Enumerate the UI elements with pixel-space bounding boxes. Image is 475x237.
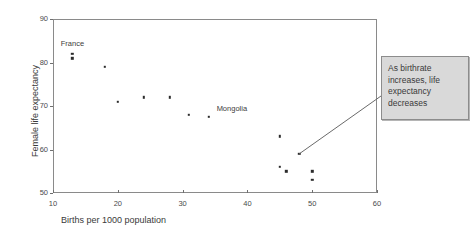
data-point: [298, 153, 300, 155]
point-annotation-label: Mongolia: [217, 106, 247, 114]
y-tick-label: 70: [26, 102, 48, 110]
plot-area: [53, 19, 377, 193]
data-point: [311, 170, 313, 172]
data-point: [104, 66, 106, 68]
x-tick-mark: [312, 190, 313, 193]
y-tick-mark: [50, 19, 53, 20]
x-tick-label: 10: [41, 200, 65, 208]
data-point: [207, 116, 209, 118]
data-point: [71, 53, 73, 55]
x-tick-mark: [53, 190, 54, 193]
x-tick-label: 60: [365, 200, 389, 208]
x-tick-mark: [183, 190, 184, 193]
y-tick-mark: [50, 193, 53, 194]
y-tick-mark: [50, 150, 53, 151]
callout-text: As birthrate increases, life expectancy …: [388, 63, 463, 109]
x-tick-label: 40: [235, 200, 259, 208]
data-point: [168, 96, 170, 98]
y-tick-label: 80: [26, 59, 48, 67]
x-tick-mark: [247, 190, 248, 193]
y-tick-label: 60: [26, 146, 48, 154]
y-tick-mark: [50, 63, 53, 64]
point-annotation-label: France: [61, 40, 84, 48]
data-point: [285, 170, 287, 172]
x-tick-label: 20: [106, 200, 130, 208]
x-tick-mark: [118, 190, 119, 193]
data-point: [279, 135, 281, 137]
y-axis-title: Female life expectancy: [30, 31, 40, 191]
callout-box: As birthrate increases, life expectancy …: [381, 56, 469, 120]
y-tick-mark: [50, 106, 53, 107]
scatter-plot-figure: Female life expectancy Births per 1000 p…: [0, 0, 475, 237]
x-axis-title: Births per 1000 population: [53, 215, 377, 225]
data-point: [143, 96, 145, 98]
data-point: [311, 179, 313, 181]
y-tick-label: 90: [26, 15, 48, 23]
x-tick-label: 50: [300, 200, 324, 208]
data-point: [71, 57, 73, 59]
y-tick-label: 50: [26, 189, 48, 197]
data-point: [117, 100, 119, 102]
x-tick-mark: [377, 190, 378, 193]
data-point: [279, 166, 281, 168]
x-tick-label: 30: [171, 200, 195, 208]
data-point: [188, 113, 190, 115]
